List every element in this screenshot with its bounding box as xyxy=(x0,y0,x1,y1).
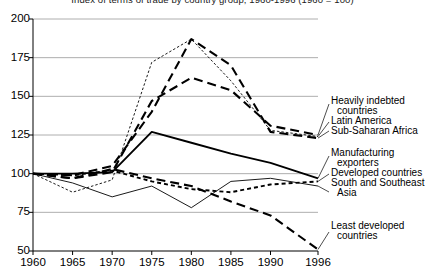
y-axis-tick-label: 100 xyxy=(0,168,30,180)
series-line xyxy=(33,39,318,192)
y-axis-tick-label: 150 xyxy=(0,90,30,102)
x-axis-tick-label: 1965 xyxy=(51,257,95,267)
label-leader-line xyxy=(318,186,329,192)
y-axis-tick-label: 125 xyxy=(0,129,30,141)
x-axis-tick-label: 1996 xyxy=(296,257,340,267)
label-leader-line xyxy=(318,104,329,135)
series-line xyxy=(33,169,318,249)
y-axis-tick-label: 175 xyxy=(0,52,30,64)
series-line xyxy=(33,132,318,178)
x-axis-tick-label: 1970 xyxy=(90,257,134,267)
x-axis-tick-label: 1985 xyxy=(209,257,253,267)
series-label: Asia xyxy=(337,188,356,199)
y-axis-tick-label: 75 xyxy=(0,206,30,218)
series-line xyxy=(33,39,318,175)
x-axis-tick-label: 1980 xyxy=(169,257,213,267)
chart-container: Index of terms of trade by country group… xyxy=(0,0,425,267)
series-line xyxy=(33,78,318,179)
series-label: Sub-Saharan Africa xyxy=(331,126,418,137)
y-axis-tick-label: 50 xyxy=(0,245,30,257)
x-axis-tick-label: 1990 xyxy=(249,257,293,267)
x-axis-tick-label: 1975 xyxy=(130,257,174,267)
label-leader-line xyxy=(318,232,329,249)
x-axis-tick-label: 1960 xyxy=(11,257,55,267)
y-axis-tick-label: 200 xyxy=(0,13,30,25)
series-label: countries xyxy=(337,231,378,242)
